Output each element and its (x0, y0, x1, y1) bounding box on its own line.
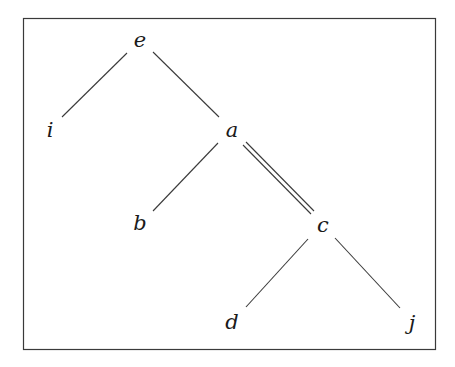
node-c: c (317, 213, 329, 237)
node-d: d (225, 310, 238, 334)
edge-a-b (153, 143, 218, 211)
node-a: a (226, 118, 239, 142)
edge-e-i (62, 53, 127, 117)
node-b: b (133, 211, 146, 235)
node-e: e (134, 28, 146, 52)
edge-c-d (246, 239, 308, 307)
diagram-frame (24, 19, 436, 350)
node-j: j (405, 311, 416, 335)
tree-diagram: e i a b c d j (0, 0, 455, 367)
edge-e-a (153, 52, 219, 117)
edge-c-j (335, 238, 400, 308)
node-i: i (47, 118, 54, 142)
edge-a-c-double (243, 142, 314, 214)
